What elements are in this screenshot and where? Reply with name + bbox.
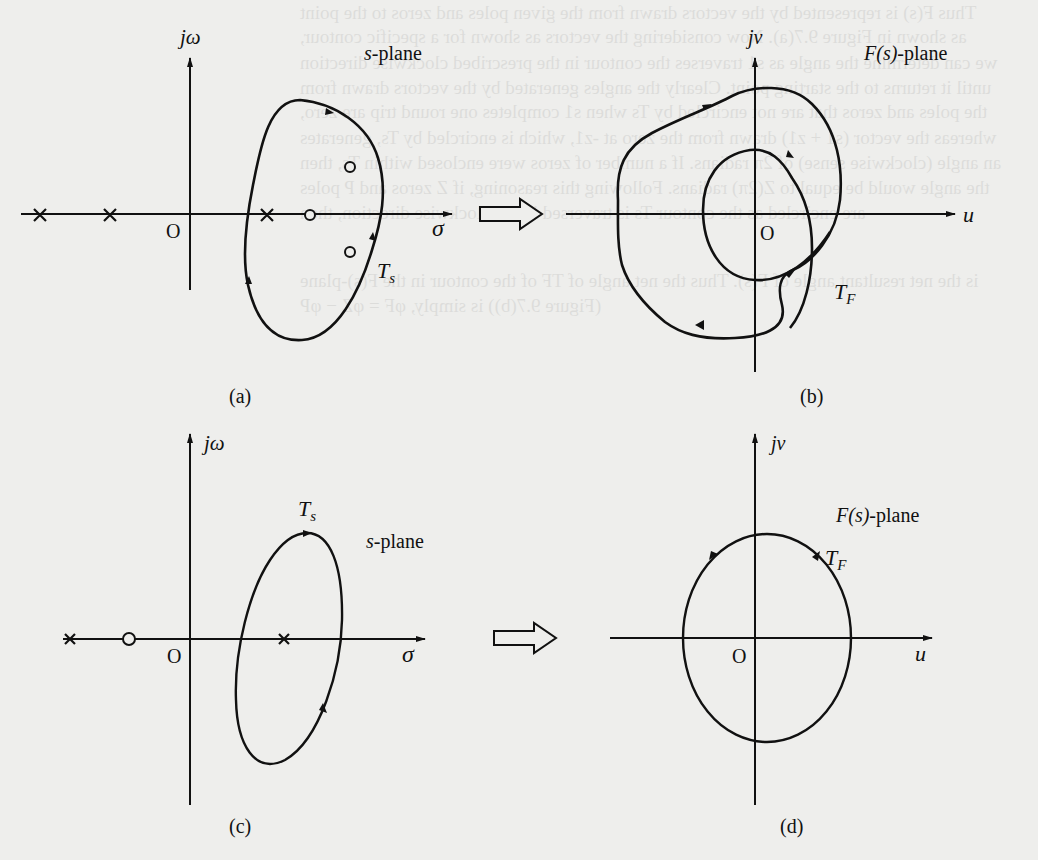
origin-label: O: [167, 645, 181, 667]
caption-c: (c): [229, 815, 251, 838]
zero-circle-icon: [345, 162, 355, 172]
direction-arrow-icon: [786, 150, 794, 158]
direction-arrow-icon: [303, 530, 312, 537]
s-plane-label: s-plane: [366, 530, 424, 553]
origin-label: O: [760, 222, 774, 244]
ts-label: Ts: [298, 496, 316, 524]
j-omega-label: jω: [177, 25, 201, 49]
direction-arrow-icon: [695, 320, 704, 330]
contour-ts: [236, 533, 342, 764]
zero-circle-icon: [305, 210, 315, 220]
jv-label: jv: [768, 432, 786, 455]
panel-d: jv u O F(s)-plane TF (d): [610, 432, 932, 838]
origin-label: O: [732, 645, 746, 667]
caption-a: (a): [229, 385, 251, 408]
origin-label: O: [166, 220, 180, 242]
panel-c: jω σ O s-plane Ts (c): [63, 431, 425, 838]
u-label: u: [963, 202, 974, 227]
panel-a: jω σ O s-plane Ts (a): [21, 25, 452, 408]
sigma-label: σ: [402, 641, 415, 667]
sigma-label: σ: [432, 215, 445, 241]
f-plane-label: F(s)-plane: [835, 504, 919, 527]
mapping-arrow-icon: [494, 623, 556, 653]
ts-label: Ts: [377, 258, 395, 286]
zero-circle-icon: [345, 247, 355, 257]
caption-d: (d): [780, 815, 803, 838]
zero-markers: [305, 162, 355, 257]
s-plane-label: s-plane: [364, 42, 422, 65]
caption-b: (b): [800, 385, 823, 408]
j-omega-label: jω: [201, 431, 225, 455]
zero-circle-icon: [123, 633, 135, 645]
mapping-arrow-icon: [480, 199, 542, 229]
jv-label: jv: [745, 26, 763, 49]
u-label: u: [915, 641, 926, 666]
tf-label: TF: [825, 545, 847, 573]
f-plane-label: F(s)-plane: [863, 42, 947, 65]
tf-label: TF: [834, 279, 856, 307]
contour-ts: [245, 100, 383, 340]
conformal-mapping-figure: jω σ O s-plane Ts (a) jv u O F(s)-plane: [0, 0, 1038, 860]
panel-b: jv u O F(s)-plane TF (b): [566, 26, 974, 408]
